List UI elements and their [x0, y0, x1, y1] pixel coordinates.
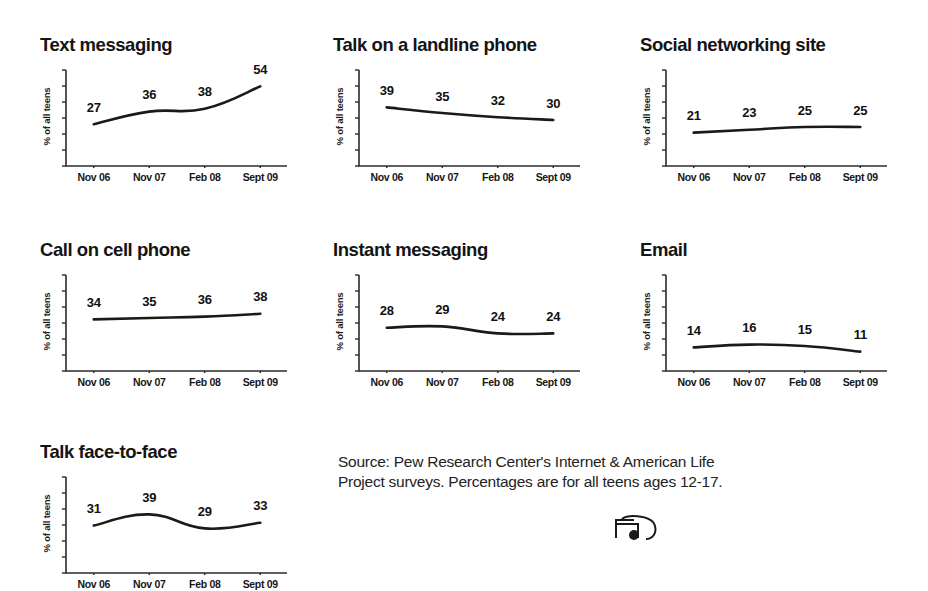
y-axis-label-text: % of all teens — [42, 495, 53, 553]
data-point-label: 24 — [546, 309, 560, 324]
x-axis-tick-label: Feb 08 — [177, 376, 233, 388]
data-point-label: 39 — [142, 490, 156, 505]
chart-area: % of all teens27363854Nov 06Nov 07Feb 08… — [40, 68, 292, 184]
x-axis-tick-label: Feb 08 — [177, 578, 233, 590]
x-axis-tick-label: Sept 09 — [233, 171, 289, 183]
data-point-label: 36 — [142, 87, 156, 102]
axis-spine — [66, 70, 287, 166]
x-axis-tick-label: Nov 07 — [722, 376, 778, 388]
x-axis-tick-label: Sept 09 — [233, 578, 289, 590]
panel-talk-landline: Talk on a landline phone % of all teens3… — [333, 36, 585, 184]
x-axis-tick-label: Sept 09 — [526, 376, 582, 388]
x-axis-tick-label: Sept 09 — [833, 171, 889, 183]
y-axis-label: % of all teens — [333, 273, 347, 371]
x-axis-tick-labels: Nov 06Nov 07Feb 08Sept 09 — [666, 376, 888, 388]
x-axis-tick-labels: Nov 06Nov 07Feb 08Sept 09 — [666, 171, 888, 183]
data-series-line — [94, 313, 261, 319]
data-point-label: 24 — [491, 309, 505, 324]
pew-logo-partial — [608, 512, 698, 544]
data-point-label: 27 — [87, 100, 101, 115]
x-axis-tick-label: Nov 06 — [66, 376, 122, 388]
source-note: Source: Pew Research Center's Internet &… — [338, 452, 898, 492]
data-point-label: 38 — [198, 84, 212, 99]
panel-text-messaging: Text messaging % of all teens27363854Nov… — [40, 36, 292, 184]
x-axis-tick-label: Feb 08 — [777, 171, 833, 183]
panel-title: Social networking site — [640, 36, 892, 55]
data-point-label: 31 — [87, 501, 101, 516]
x-axis-tick-label: Sept 09 — [526, 171, 582, 183]
y-axis-label: % of all teens — [40, 273, 54, 371]
data-point-label: 16 — [742, 320, 756, 335]
data-series-line — [694, 344, 861, 351]
y-axis-label-text: % of all teens — [642, 293, 653, 351]
plot-canvas — [56, 475, 288, 575]
x-axis-tick-label: Nov 06 — [359, 171, 415, 183]
y-axis-label-text: % of all teens — [42, 293, 53, 351]
x-axis-tick-label: Feb 08 — [470, 171, 526, 183]
y-axis-label: % of all teens — [40, 68, 54, 166]
data-point-label: 29 — [435, 302, 449, 317]
y-axis-label-text: % of all teens — [42, 88, 53, 146]
x-axis-tick-label: Nov 07 — [122, 578, 178, 590]
x-axis-tick-labels: Nov 06Nov 07Feb 08Sept 09 — [359, 376, 581, 388]
data-point-label: 14 — [687, 323, 701, 338]
panel-talk-face-to-face: Talk face-to-face % of all teens31392933… — [40, 443, 292, 591]
x-axis-tick-label: Nov 07 — [122, 171, 178, 183]
data-point-label: 35 — [142, 294, 156, 309]
x-axis-tick-label: Nov 06 — [666, 376, 722, 388]
x-axis-tick-label: Sept 09 — [233, 376, 289, 388]
chart-area: % of all teens31392933Nov 06Nov 07Feb 08… — [40, 475, 292, 591]
data-series-line — [94, 86, 261, 124]
panel-title: Text messaging — [40, 36, 292, 55]
chart-area: % of all teens39353230Nov 06Nov 07Feb 08… — [333, 68, 585, 184]
data-point-label: 32 — [491, 93, 505, 108]
x-axis-tick-label: Nov 07 — [415, 376, 471, 388]
x-axis-tick-label: Nov 06 — [666, 171, 722, 183]
x-axis-tick-label: Nov 06 — [66, 171, 122, 183]
x-axis-tick-labels: Nov 06Nov 07Feb 08Sept 09 — [66, 578, 288, 590]
x-axis-tick-label: Feb 08 — [177, 171, 233, 183]
chart-area: % of all teens21232525Nov 06Nov 07Feb 08… — [640, 68, 892, 184]
data-point-label: 29 — [198, 504, 212, 519]
data-point-label: 54 — [253, 62, 267, 77]
x-axis-tick-labels: Nov 06Nov 07Feb 08Sept 09 — [359, 171, 581, 183]
data-point-label: 15 — [798, 322, 812, 337]
panel-title: Call on cell phone — [40, 241, 292, 260]
panel-title: Talk face-to-face — [40, 443, 292, 462]
panel-instant-messaging: Instant messaging % of all teens28292424… — [333, 241, 585, 389]
data-point-label: 33 — [253, 498, 267, 513]
data-series-line — [387, 107, 554, 120]
x-axis-tick-labels: Nov 06Nov 07Feb 08Sept 09 — [66, 171, 288, 183]
x-axis-tick-label: Nov 06 — [66, 578, 122, 590]
y-axis-label-text: % of all teens — [642, 88, 653, 146]
chart-area: % of all teens14161511Nov 06Nov 07Feb 08… — [640, 273, 892, 389]
x-axis-tick-label: Nov 07 — [722, 171, 778, 183]
data-series-line — [694, 126, 861, 132]
y-axis-label: % of all teens — [333, 68, 347, 166]
y-axis-label: % of all teens — [40, 475, 54, 573]
data-point-label: 23 — [742, 105, 756, 120]
y-axis-label-text: % of all teens — [335, 88, 346, 146]
data-point-label: 36 — [198, 292, 212, 307]
plot-canvas — [56, 68, 288, 168]
x-axis-tick-label: Feb 08 — [470, 376, 526, 388]
data-point-label: 35 — [435, 89, 449, 104]
panel-title: Talk on a landline phone — [333, 36, 585, 55]
data-point-label: 30 — [546, 96, 560, 111]
x-axis-tick-label: Feb 08 — [777, 376, 833, 388]
y-axis-label: % of all teens — [640, 68, 654, 166]
plot-canvas — [56, 273, 288, 373]
x-axis-tick-label: Nov 06 — [359, 376, 415, 388]
data-point-label: 25 — [798, 103, 812, 118]
data-point-label: 28 — [380, 303, 394, 318]
data-point-label: 25 — [853, 103, 867, 118]
data-series-line — [387, 326, 554, 334]
chart-area: % of all teens34353638Nov 06Nov 07Feb 08… — [40, 273, 292, 389]
data-point-label: 11 — [854, 327, 867, 342]
data-point-label: 38 — [253, 289, 267, 304]
x-axis-tick-labels: Nov 06Nov 07Feb 08Sept 09 — [66, 376, 288, 388]
panel-title: Instant messaging — [333, 241, 585, 260]
x-axis-tick-label: Nov 07 — [122, 376, 178, 388]
chart-area: % of all teens28292424Nov 06Nov 07Feb 08… — [333, 273, 585, 389]
data-series-line — [94, 514, 261, 528]
